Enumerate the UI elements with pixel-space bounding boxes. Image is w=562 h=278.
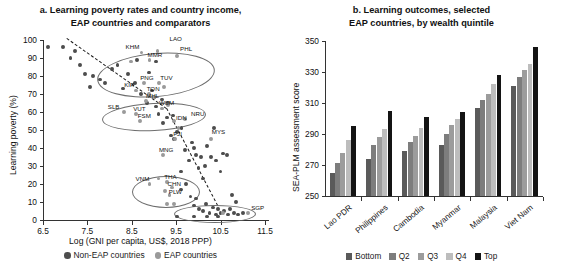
scatter-point-eap (221, 211, 225, 215)
panel-a-legend: Non-EAP countriesEAP countries (0, 250, 281, 260)
panel-b-title: b. Learning outcomes, selected EAP count… (281, 4, 562, 29)
bar-bottom (475, 108, 480, 196)
bar-top (424, 117, 429, 196)
panel-a-y-tick-label: 100 (11, 36, 37, 44)
scatter-point-non-eap (139, 92, 143, 96)
bar-q4 (455, 119, 460, 197)
scatter-point-non-eap (187, 159, 191, 163)
panel-a-y-tick-label: 70 (11, 90, 37, 98)
panel-a-y-tick-label: 50 (11, 126, 37, 134)
panel-a-x-tick-label: 10.5 (207, 227, 235, 235)
bar-top (497, 75, 502, 196)
panel-b-x-tick (470, 197, 471, 201)
scatter-point-label: CHN (168, 181, 181, 187)
bar-bottom (511, 86, 516, 196)
legend-label: Non-EAP countries (74, 250, 145, 260)
bar-bottom (366, 159, 371, 196)
scatter-point-eap (165, 202, 169, 206)
panel-b-title-line1: b. Learning outcomes, selected (353, 5, 490, 15)
legend-label: Q2 (399, 252, 410, 261)
scatter-point-label: IDN (176, 115, 187, 121)
panel-b-y-tick-label: 310 (293, 99, 319, 107)
scatter-point-non-eap (201, 209, 205, 213)
panel-a-plot-area: 01020304050607080901006.57.58.59.510.511… (43, 40, 265, 220)
scatter-point-non-eap (73, 49, 77, 53)
scatter-point-non-eap (203, 164, 207, 168)
panel-b-y-tick-label: 270 (293, 161, 319, 169)
scatter-point-non-eap (205, 144, 209, 148)
panel-a-y-tick-label: 30 (11, 162, 37, 170)
panel-a-y-tick-label: 60 (11, 108, 37, 116)
scatter-point-label: KIR (124, 82, 134, 88)
scatter-point-non-eap (184, 182, 188, 186)
scatter-point-non-eap (226, 213, 230, 217)
scatter-point-non-eap (221, 152, 225, 156)
bar-q3 (486, 94, 491, 196)
bar-q4 (491, 84, 496, 196)
bar-q3 (340, 153, 345, 196)
scatter-point-non-eap (46, 45, 50, 49)
legend-item-top[interactable]: Top (475, 252, 498, 261)
panel-b-bars: b. Learning outcomes, selected EAP count… (281, 0, 562, 278)
panel-a-y-tick-label: 90 (11, 54, 37, 62)
panel-a-x-tick-label: 7.5 (73, 227, 101, 235)
figure-container: a. Learning poverty rates and country in… (0, 0, 562, 278)
scatter-point-non-eap (78, 63, 82, 67)
bar-q4 (419, 128, 424, 196)
bar-q2 (408, 142, 413, 196)
legend-item-eap[interactable]: EAP countries (155, 250, 217, 260)
scatter-point-non-eap (83, 72, 87, 76)
panel-b-x-tick (361, 197, 362, 201)
scatter-point-non-eap (230, 193, 234, 197)
scatter-point-non-eap (232, 211, 236, 215)
scatter-point-eap (172, 202, 176, 206)
legend-label: Q3 (427, 252, 438, 261)
panel-a-title-line2: EAP countries and comparators (0, 17, 281, 30)
scatter-point-eap (138, 119, 142, 123)
legend-item-q4[interactable]: Q4 (446, 252, 466, 261)
scatter-point-non-eap (190, 141, 194, 145)
scatter-point-label: WSM (159, 100, 174, 106)
scatter-point-label: PLW (169, 189, 182, 195)
scatter-point-label: MNG (159, 147, 173, 153)
panel-b-y-axis (325, 41, 326, 196)
scatter-point-non-eap (61, 45, 65, 49)
legend-item-non[interactable]: Non-EAP countries (64, 250, 145, 260)
panel-a-y-tick (40, 148, 44, 149)
scatter-point-eap (209, 137, 213, 141)
panel-b-y-tick-label: 330 (293, 68, 319, 76)
scatter-point-label: TON (147, 86, 160, 92)
legend-item-bottom[interactable]: Bottom (346, 252, 381, 261)
panel-b-legend: BottomQ2Q3Q4Top (281, 252, 562, 261)
panel-b-y-tick-label: 350 (293, 37, 319, 45)
legend-swatch-icon (418, 253, 425, 260)
panel-a-y-tick (40, 94, 44, 95)
panel-b-plot-area: 250270290310330350Lao PDRPhilippinesCamb… (325, 41, 543, 196)
bar-bottom (439, 145, 444, 196)
bar-top (460, 112, 465, 196)
scatter-point-eap (144, 99, 148, 103)
panel-b-x-tick (507, 197, 508, 201)
panel-b-y-tick (322, 165, 326, 166)
bar-q2 (517, 77, 522, 196)
scatter-point-non-eap (110, 67, 114, 71)
scatter-point-non-eap (135, 58, 139, 62)
legend-label: Bottom (355, 252, 381, 261)
panel-b-y-tick (322, 196, 326, 197)
legend-item-q2[interactable]: Q2 (389, 252, 409, 261)
scatter-point-non-eap (194, 153, 198, 157)
scatter-point-non-eap (214, 159, 218, 163)
scatter-point-eap (173, 137, 177, 141)
panel-b-y-tick-label: 290 (293, 130, 319, 138)
scatter-point-non-eap (183, 148, 187, 152)
panel-a-xlabel: Log (GNI per capita, US$, 2018 PPP) (0, 236, 281, 246)
bar-q2 (444, 134, 449, 196)
scatter-point-non-eap (204, 202, 208, 206)
legend-item-q3[interactable]: Q3 (418, 252, 438, 261)
panel-b-x-tick (398, 197, 399, 201)
scatter-point-eap (122, 110, 126, 114)
scatter-point-label: KHM (126, 44, 140, 50)
legend-swatch-icon (155, 252, 162, 259)
scatter-point-non-eap (192, 215, 196, 219)
panel-a-y-tick (40, 202, 44, 203)
